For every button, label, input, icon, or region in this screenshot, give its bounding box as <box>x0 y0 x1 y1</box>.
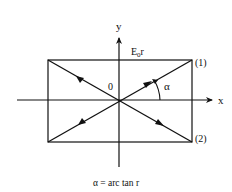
e0r-tail: r <box>141 46 145 57</box>
alpha-label: α <box>164 80 170 92</box>
y-axis-label: y <box>116 20 122 32</box>
x-axis-label: x <box>218 94 224 106</box>
caption: α = arc tan r <box>93 178 140 188</box>
origin-label: 0 <box>108 81 113 92</box>
corner-label-1: (1) <box>195 57 207 69</box>
phase-diagram: y x 0 α E0r (1) (2) α = arc tan r <box>0 0 232 192</box>
corner-label-2: (2) <box>195 133 207 145</box>
arrow-toward-2-icon <box>155 119 164 126</box>
e0r-label: E0r <box>131 46 145 59</box>
